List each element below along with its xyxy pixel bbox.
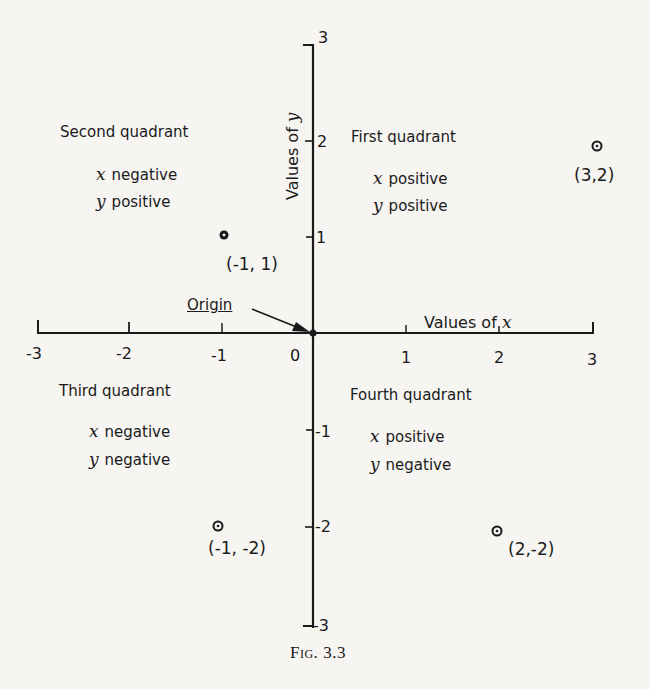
y-sign: negative: [386, 456, 452, 474]
second-quadrant-title: Second quadrant: [60, 125, 188, 140]
y-sign: positive: [112, 193, 171, 211]
x-axis-label: Values of x: [424, 314, 517, 331]
figure-3-3: Values of y 3 2 1 -1 -2 -3 -3 -2 -1 0 1 …: [0, 0, 650, 689]
x-var: x: [370, 426, 380, 446]
x-tick-label--1: -1: [211, 348, 227, 364]
second-quadrant-y-sign: ypositive: [96, 193, 170, 210]
y-tick-label-1: 1: [316, 230, 326, 246]
y-var: y: [370, 454, 380, 474]
y-axis-label: Values of y: [282, 107, 302, 200]
origin-label: Origin: [187, 298, 232, 313]
x-sign: negative: [112, 166, 178, 184]
x-var: x: [89, 421, 99, 441]
caption-prefix: Fig.: [290, 643, 318, 662]
third-quadrant-y-sign: ynegative: [89, 451, 170, 468]
x-tick-label-1: 1: [401, 350, 411, 366]
fourth-quadrant-y-sign: ynegative: [370, 456, 451, 473]
x-var: x: [373, 168, 383, 188]
coordinate-axes: [0, 0, 650, 689]
first-quadrant-x-sign: xpositive: [373, 170, 447, 187]
y-axis-label-text: Values of: [283, 127, 302, 200]
second-quadrant-x-sign: xnegative: [96, 166, 177, 183]
y-var: y: [373, 195, 383, 215]
x-tick-label-0: 0: [290, 348, 300, 364]
y-var: y: [89, 449, 99, 469]
caption-number: 3.3: [323, 643, 346, 662]
point-label-neg1-neg2: (-1, -2): [208, 540, 266, 557]
x-axis-label-text: Values of: [424, 313, 497, 332]
x-tick-label-3: 3: [587, 352, 597, 368]
y-tick-label-3: 3: [318, 30, 328, 46]
origin-arrowhead: [292, 322, 310, 332]
origin-dot: [310, 330, 317, 337]
x-sign: positive: [386, 428, 445, 446]
y-tick-label-2: 2: [317, 134, 327, 150]
point-label-3-2: (3,2): [574, 167, 614, 184]
point-neg1-1: [220, 231, 229, 240]
third-quadrant-title: Third quadrant: [59, 384, 171, 399]
x-tick-label--2: -2: [116, 346, 132, 362]
point-label-neg1-1: (-1, 1): [226, 256, 278, 273]
point-neg1-neg2: [214, 522, 223, 531]
fourth-quadrant-title: Fourth quadrant: [350, 388, 472, 403]
x-tick-label--3: -3: [26, 346, 42, 362]
third-quadrant-x-sign: xnegative: [89, 423, 170, 440]
y-tick-label--3: -3: [313, 618, 329, 634]
x-var: x: [96, 164, 106, 184]
point-2-neg2: [493, 527, 502, 536]
x-tick-label-2: 2: [494, 350, 504, 366]
y-axis-label-var: y: [282, 113, 302, 123]
y-tick-label--1: -1: [315, 424, 331, 440]
first-quadrant-title: First quadrant: [351, 130, 456, 145]
x-axis-label-var: x: [502, 312, 512, 332]
y-sign: negative: [105, 451, 171, 469]
x-sign: positive: [389, 170, 448, 188]
y-tick-label--2: -2: [315, 519, 331, 535]
x-sign: negative: [105, 423, 171, 441]
point-label-2-neg2: (2,-2): [508, 541, 554, 558]
figure-caption: Fig. 3.3: [290, 643, 346, 663]
point-3-2: [593, 142, 602, 151]
first-quadrant-y-sign: ypositive: [373, 197, 447, 214]
fourth-quadrant-x-sign: xpositive: [370, 428, 444, 445]
y-sign: positive: [389, 197, 448, 215]
y-var: y: [96, 191, 106, 211]
